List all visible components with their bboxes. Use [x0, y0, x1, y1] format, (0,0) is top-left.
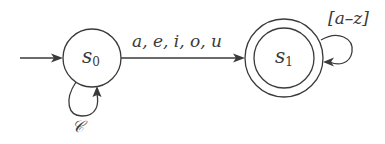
self-loop-s1	[321, 36, 352, 67]
transition-s0-s1-label: a, e, i, o, u	[132, 33, 222, 50]
state-s1-label-base: s	[275, 44, 285, 68]
self-loop-s0-label: 𝒞	[72, 119, 84, 135]
state-s0-label: s0	[82, 46, 100, 68]
state-s0-label-base: s	[82, 44, 92, 68]
self-loop-s1-label: [a–z]	[328, 10, 369, 27]
state-s1-label: s1	[275, 46, 293, 68]
transition-s0-s1	[121, 54, 245, 63]
initial-arrow	[20, 54, 63, 63]
self-loop-s0	[69, 82, 102, 116]
state-s1-label-sub: 1	[285, 55, 293, 69]
state-s0-label-sub: 0	[92, 55, 100, 69]
automaton-diagram: s0 s1 a, e, i, o, u 𝒞 [a–z]	[0, 0, 385, 144]
